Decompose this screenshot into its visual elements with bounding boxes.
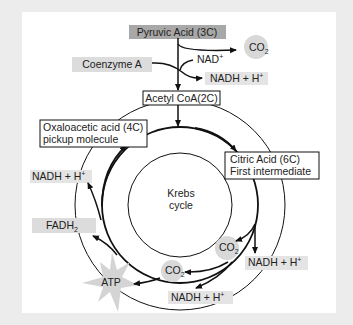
nad-arrow [180,60,193,70]
pyruvic-acid-label: Pyruvic Acid (3C) [137,26,218,38]
to-atp-arrow [134,278,160,284]
krebs-label-1: Krebs [167,187,194,199]
to-oxaloacetic-arrow [102,146,126,206]
coenzyme-a-arrow [152,63,202,78]
nadh-left-label: NADH + H+ [32,170,85,182]
coenzyme-a-label: Coenzyme A [82,58,142,70]
co2-release-arrow [178,44,236,50]
krebs-label-2: cycle [169,199,193,211]
nad-plus-label: NAD+ [197,53,223,65]
atp-label: ATP [101,276,121,288]
oxaloacetic-label-1: Oxaloacetic acid (4C) [43,121,143,133]
nadh-top-label: NADH + H+ [210,72,263,84]
nadh-right-label: NADH + H+ [248,256,301,268]
krebs-cycle-diagram: Pyruvic Acid (3C) CO2 NAD+ Coenzyme A NA… [0,0,353,325]
to-nadh-left-arrow [88,183,101,220]
nadh-bottom-label: NADH + H+ [171,291,224,303]
oxaloacetic-label-2: pickup molecule [43,133,118,145]
fadh2-label: FADH2 [46,219,78,233]
acetyl-coa-label: Acetyl CoA(2C) [145,92,217,104]
citric-acid-label-2: First intermediate [230,165,311,177]
to-citric-arrow [195,128,236,151]
citric-acid-label-1: Citric Acid (6C) [230,153,300,165]
